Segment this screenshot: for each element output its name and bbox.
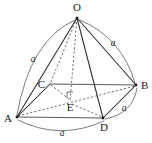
vertex-label-E: E (67, 101, 74, 113)
right-angle-marker-at-E (67, 92, 73, 98)
tetrahedron-diagram: O C B A D E a a a a (0, 0, 152, 143)
solid-edge-group (17, 18, 136, 118)
vertex-dot-D (102, 117, 105, 120)
vertex-dot-O (76, 17, 79, 20)
edge-length-label-O-A: a (31, 54, 36, 64)
hidden-edge-group (18, 18, 135, 117)
vertex-label-D: D (100, 121, 108, 133)
edge-C-B (50, 84, 136, 85)
vertex-label-group: O C B A D E (4, 1, 148, 133)
vertex-dot-B (135, 84, 138, 87)
edge-E-D-diagonal (72, 104, 102, 117)
edge-O-E-altitude (70, 18, 77, 101)
edge-length-label-A-D: a (60, 128, 65, 138)
edge-length-label-O-B: a (111, 38, 116, 48)
vertex-label-O: O (73, 1, 81, 13)
edge-D-B (103, 85, 136, 118)
edge-length-label-group: a a a a (31, 38, 127, 138)
arc-O-B (80, 20, 135, 83)
vertex-label-A: A (4, 112, 12, 124)
edge-length-label-B-D: a (122, 103, 127, 113)
edge-A-B-diagonal (18, 86, 135, 116)
edge-O-C (50, 18, 77, 84)
vertex-label-C: C (38, 78, 45, 90)
vertex-dot-A (16, 116, 19, 119)
edge-A-D (17, 117, 103, 118)
vertex-label-B: B (141, 79, 148, 91)
vertex-dot-group (16, 17, 138, 120)
arc-group (17, 20, 137, 131)
geometry-figure-container: O C B A D E a a a a (0, 0, 152, 143)
